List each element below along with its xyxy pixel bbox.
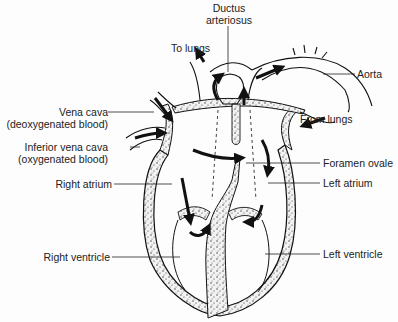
label-left-atrium: Left atrium xyxy=(323,177,373,189)
label-to-lungs: To lungs xyxy=(171,42,210,54)
label-inferior-vena-cava: Inferior vena cava (oxygenated blood) xyxy=(0,141,108,165)
label-vena-cava-line2: (deoxygenated blood) xyxy=(0,118,108,130)
label-left-ventricle: Left ventricle xyxy=(323,248,383,260)
label-aorta: Aorta xyxy=(357,68,382,80)
label-ivc-line1: Inferior vena cava xyxy=(0,141,108,153)
label-ivc-line2: (oxygenated blood) xyxy=(0,153,108,165)
heart-wall xyxy=(143,98,305,318)
label-ductus-line1: Ductus xyxy=(204,2,254,14)
label-foramen-ovale: Foramen ovale xyxy=(323,157,393,169)
label-right-atrium: Right atrium xyxy=(0,178,112,190)
label-ductus-arteriosus: Ductus arteriosus xyxy=(204,2,254,26)
label-from-lungs: From lungs xyxy=(300,113,353,125)
label-ductus-line2: arteriosus xyxy=(204,14,254,26)
label-vena-cava-line1: Vena cava xyxy=(0,106,108,118)
label-vena-cava: Vena cava (deoxygenated blood) xyxy=(0,106,108,130)
fetal-heart-diagram: Ductus arteriosus To lungs Aorta Vena ca… xyxy=(0,0,398,322)
great-vessels xyxy=(126,45,372,150)
label-right-ventricle: Right ventricle xyxy=(0,251,110,263)
